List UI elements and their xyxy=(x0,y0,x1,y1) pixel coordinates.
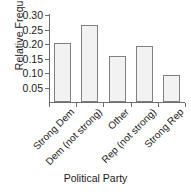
plot-area: 0.050.100.150.200.250.30 xyxy=(49,14,185,103)
bar xyxy=(81,25,98,102)
bar xyxy=(163,75,180,102)
y-tick-label: 0.30 xyxy=(23,10,43,21)
bar-chart-figure: Relative Frequency 0.050.100.150.200.250… xyxy=(0,0,191,195)
y-tick-label: 0.15 xyxy=(23,53,43,64)
y-tick-mark xyxy=(45,15,49,16)
y-tick-label: 0.20 xyxy=(23,39,43,50)
x-axis-tick-labels: Strong DemDem (not strong)OtherRep (not … xyxy=(0,107,191,165)
bar xyxy=(54,43,71,102)
y-tick-mark xyxy=(45,88,49,89)
y-tick-label: 0.10 xyxy=(23,68,43,79)
bar xyxy=(136,46,153,102)
bar xyxy=(109,56,126,102)
y-tick-mark xyxy=(45,30,49,31)
y-axis-line xyxy=(49,14,50,103)
y-tick-mark xyxy=(45,59,49,60)
y-tick-mark xyxy=(45,44,49,45)
y-tick-label: 0.05 xyxy=(23,82,43,93)
x-axis-line xyxy=(49,102,185,103)
x-axis-title: Political Party xyxy=(0,172,191,184)
y-tick-mark xyxy=(45,73,49,74)
y-tick-label: 0.25 xyxy=(23,25,43,36)
